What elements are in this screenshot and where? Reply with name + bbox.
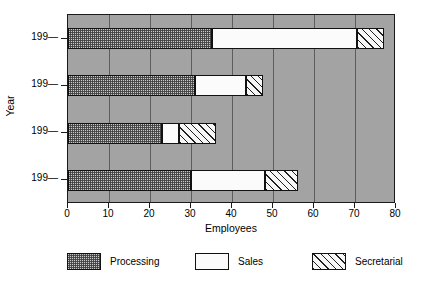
x-tick-label: 40 [216,208,246,219]
x-tick-label: 10 [93,208,123,219]
bar-segment-sales [162,123,178,144]
bar-segment-secretarial [265,170,298,191]
y-axis-title: Year [4,81,16,131]
legend-swatch-processing [67,253,101,270]
legend-label: Secretarial [355,256,403,267]
x-tick-label: 50 [257,208,287,219]
y-tick [61,38,67,39]
bar-segment-sales [191,170,265,191]
bar-segment-secretarial [246,75,262,96]
bar-segment-processing [68,75,195,96]
x-tick-label: 80 [380,208,410,219]
x-tick-label: 60 [298,208,328,219]
x-axis-title: Employees [67,222,395,234]
y-tick-label: 199— [16,78,58,89]
legend-label: Processing [110,256,159,267]
bar-segment-sales [212,28,358,49]
legend-item-sales[interactable]: Sales [195,250,263,272]
bar-row [68,170,396,191]
legend-item-secretarial[interactable]: Secretarial [312,250,403,272]
x-tick-label: 30 [175,208,205,219]
bar-segment-sales [195,75,246,96]
y-tick [61,85,67,86]
bar-row [68,75,396,96]
y-tick [61,132,67,133]
y-tick-label: 199— [16,31,58,42]
legend-label: Sales [238,256,263,267]
legend-item-processing[interactable]: Processing [67,250,159,272]
bar-chart: 01020304050607080 199—199—199—199— Emplo… [0,0,421,286]
y-tick-label: 199— [16,125,58,136]
bar-segment-processing [68,170,191,191]
plot-area [67,14,395,203]
legend-swatch-sales [195,253,229,270]
y-tick-label: 199— [16,172,58,183]
chart-legend: ProcessingSalesSecretarial [67,250,407,274]
bar-row [68,28,396,49]
bar-segment-processing [68,123,162,144]
x-tick-label: 0 [52,208,82,219]
x-tick-label: 70 [339,208,369,219]
bar-segment-processing [68,28,212,49]
x-tick-label: 20 [134,208,164,219]
legend-swatch-secretarial [312,253,346,270]
bar-segment-secretarial [179,123,216,144]
bar-row [68,123,396,144]
bar-segment-secretarial [357,28,384,49]
y-tick [61,179,67,180]
